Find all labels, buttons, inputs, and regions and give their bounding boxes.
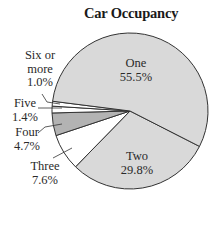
label-one: One 55.5% bbox=[118, 57, 154, 84]
label-five-pct: 1.4% bbox=[10, 111, 40, 125]
label-six-name-2: more bbox=[20, 63, 60, 77]
label-two-name: Two bbox=[117, 150, 157, 164]
label-two: Two 29.8% bbox=[117, 150, 157, 177]
label-three-name: Three bbox=[26, 160, 64, 174]
label-five-name: Five bbox=[10, 97, 40, 111]
label-two-pct: 29.8% bbox=[117, 164, 157, 178]
label-one-pct: 55.5% bbox=[118, 71, 154, 85]
label-one-name: One bbox=[118, 57, 154, 71]
label-four: Four 4.7% bbox=[12, 126, 42, 153]
label-three-pct: 7.6% bbox=[26, 174, 64, 188]
label-five: Five 1.4% bbox=[10, 97, 40, 124]
leader-line-six bbox=[42, 94, 47, 102]
label-six-name-1: Six or bbox=[20, 49, 60, 63]
label-four-name: Four bbox=[12, 126, 42, 140]
label-four-pct: 4.7% bbox=[12, 140, 42, 154]
label-six-or-more: Six or more 1.0% bbox=[20, 49, 60, 90]
label-three: Three 7.6% bbox=[26, 160, 64, 187]
label-six-pct: 1.0% bbox=[20, 76, 60, 90]
